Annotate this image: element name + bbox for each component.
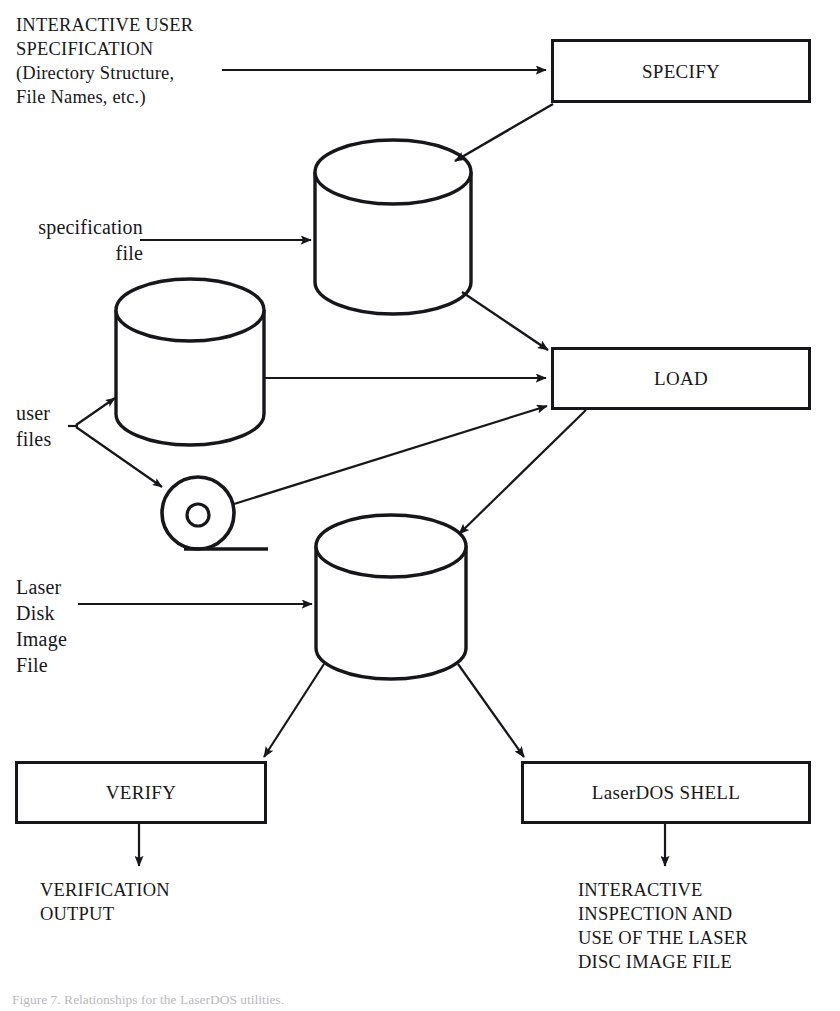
- arrow-opticaldisk-to-load: [234, 406, 547, 504]
- user-files-cylinder: [116, 279, 264, 445]
- laser-disk-image-file-label: Laser Disk Image File: [16, 574, 67, 678]
- interactive-user-specification-label: INTERACTIVE USER SPECIFICATION (Director…: [16, 13, 193, 109]
- load-box-label: LOAD: [552, 368, 810, 390]
- arrow-specify-to-specfile: [455, 104, 553, 161]
- arrow-laserdisk-to-verify: [264, 664, 324, 757]
- specification-file-label: specification file: [8, 214, 143, 266]
- user-files-label: user files: [16, 400, 51, 452]
- interactive-inspection-label: INTERACTIVE INSPECTION AND USE OF THE LA…: [578, 878, 748, 974]
- laserdos-shell-box-label: LaserDOS SHELL: [522, 782, 810, 804]
- diagram-canvas: [0, 0, 840, 1011]
- figure-page: INTERACTIVE USER SPECIFICATION (Director…: [0, 0, 840, 1011]
- specify-box-label: SPECIFY: [552, 61, 810, 83]
- verification-output-label: VERIFICATION OUTPUT: [40, 878, 170, 926]
- arrow-specfile-to-load: [462, 292, 548, 350]
- laser-disk-image-cylinder: [316, 515, 466, 679]
- arrow-laserdisk-to-shell: [458, 664, 524, 757]
- figure-caption: Figure 7. Relationships for the LaserDOS…: [12, 992, 284, 1008]
- specification-file-cylinder: [315, 140, 471, 314]
- optical-disk-icon: [162, 477, 268, 549]
- verify-box-label: VERIFY: [16, 782, 266, 804]
